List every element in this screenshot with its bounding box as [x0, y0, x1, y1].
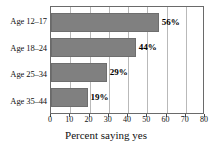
- plot-area: 56% 44% 29% 19%: [50, 6, 204, 114]
- bar-value-label: 19%: [91, 93, 109, 102]
- bar-value-label: 56%: [162, 18, 180, 27]
- category-label: Age 25–34: [0, 70, 50, 79]
- bar-series: 56% 44% 29% 19%: [51, 7, 203, 113]
- tick-label: 0: [48, 116, 52, 124]
- x-axis-title: Percent saying yes: [0, 130, 212, 141]
- x-axis-tick-labels: 01020304050607080: [50, 116, 204, 128]
- tick-label: 10: [65, 116, 73, 124]
- bar-row: 44%: [51, 38, 203, 57]
- category-label: Age 18–24: [0, 44, 50, 53]
- bar-value-label: 29%: [110, 68, 128, 77]
- category-label: Age 35–44: [0, 97, 50, 106]
- bar-row: 19%: [51, 88, 203, 107]
- bar-row: 56%: [51, 13, 203, 32]
- bar: [51, 38, 136, 57]
- bar: [51, 13, 159, 32]
- tick-label: 60: [162, 116, 170, 124]
- bar-row: 29%: [51, 63, 203, 82]
- bar-chart: Age 12–17 Age 18–24 Age 25–34 Age 35–44 …: [0, 0, 212, 150]
- tick-label: 30: [104, 116, 112, 124]
- bar-value-label: 44%: [139, 43, 157, 52]
- bar: [51, 88, 88, 107]
- bar: [51, 63, 107, 82]
- tick-label: 40: [123, 116, 131, 124]
- category-label: Age 12–17: [0, 17, 50, 26]
- tick-label: 70: [181, 116, 189, 124]
- tick-label: 20: [85, 116, 93, 124]
- tick-label: 80: [200, 116, 208, 124]
- tick-label: 50: [142, 116, 150, 124]
- category-axis-labels: Age 12–17 Age 18–24 Age 25–34 Age 35–44: [0, 8, 50, 114]
